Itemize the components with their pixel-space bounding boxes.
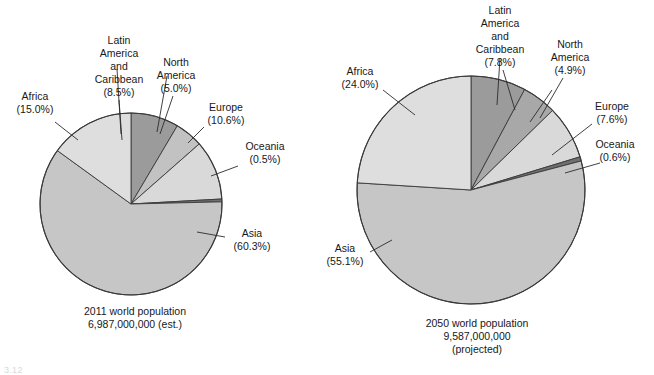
label-europe-2050-line1: Europe: [595, 100, 629, 112]
label-north-2050-line3: (4.9%): [555, 64, 586, 76]
label-africa-2050: Africa (24.0%): [342, 65, 379, 90]
label-africa-2050-line2: (24.0%): [342, 78, 379, 90]
label-oceania-2011: Oceania (0.5%): [245, 140, 284, 165]
caption-2011-line1: 2011 world population: [84, 305, 186, 317]
label-latin-2011-line5: (8.5%): [104, 86, 135, 98]
caption-2011-line2: 6,987,000,000 (est.): [88, 318, 182, 330]
caption-2050-line3: (projected): [452, 343, 502, 355]
figure-footnote: 3.12: [4, 365, 23, 375]
label-oceania-2050-line2: (0.6%): [600, 151, 631, 163]
label-latin-2011-line1: Latin: [108, 34, 131, 46]
label-north-america-2050: North America (4.9%): [551, 38, 590, 76]
label-latin-america-2011: Latin America and Caribbean (8.5%): [95, 34, 144, 98]
label-latin-2050-line5: (7.8%): [485, 56, 516, 68]
label-oceania-2011-line1: Oceania: [245, 140, 284, 152]
pie-slices-2011: [40, 113, 222, 295]
label-latin-2050-line4: Caribbean: [476, 43, 525, 55]
label-oceania-2011-line2: (0.5%): [250, 153, 281, 165]
label-oceania-2050-line1: Oceania: [595, 138, 634, 150]
label-asia-2050: Asia (55.1%): [327, 242, 364, 267]
label-north-2050-line1: North: [557, 38, 583, 50]
caption-2011: 2011 world population 6,987,000,000 (est…: [84, 305, 186, 330]
label-latin-2050-line1: Latin: [489, 4, 512, 16]
label-asia-2011-line2: (60.3%): [234, 240, 271, 252]
label-europe-2011-line2: (10.6%): [208, 114, 245, 126]
pie-chart-2011: Africa (15.0%) Latin America and Caribbe…: [17, 34, 285, 330]
label-asia-2050-line2: (55.1%): [327, 255, 364, 267]
leader-line-africa-2011: [55, 122, 78, 140]
label-europe-2011: Europe (10.6%): [208, 101, 245, 126]
label-latin-2011-line4: Caribbean: [95, 73, 144, 85]
label-africa-2050-line1: Africa: [347, 65, 374, 77]
label-north-2050-line2: America: [551, 51, 590, 63]
caption-2050-line1: 2050 world population: [426, 317, 529, 329]
label-europe-2050-line2: (7.6%): [597, 113, 628, 125]
label-latin-america-2050: Latin America and Caribbean (7.8%): [476, 4, 525, 68]
label-latin-2050-line3: and: [491, 30, 509, 42]
label-africa-2011-line1: Africa: [22, 90, 49, 102]
label-asia-2011: Asia (60.3%): [234, 227, 271, 252]
label-asia-2050-line1: Asia: [335, 242, 356, 254]
label-north-2011-line2: America: [157, 69, 196, 81]
label-asia-2011-line1: Asia: [242, 227, 263, 239]
caption-2050-line2: 9,587,000,000: [443, 330, 510, 342]
pie-2050-slice-africa: [357, 76, 471, 190]
label-north-2011-line1: North: [163, 56, 189, 68]
label-latin-2050-line2: America: [481, 17, 520, 29]
caption-2050: 2050 world population 9,587,000,000 (pro…: [426, 317, 529, 355]
label-oceania-2050: Oceania (0.6%): [595, 138, 634, 163]
label-europe-2050: Europe (7.6%): [595, 100, 629, 125]
pie-chart-2050: Africa (24.0%) Latin America and Caribbe…: [327, 4, 635, 355]
pie-slices-2050: [357, 76, 585, 304]
label-latin-2011-line3: and: [110, 60, 128, 72]
label-europe-2011-line1: Europe: [209, 101, 243, 113]
label-north-america-2011: North America (5.0%): [157, 56, 196, 94]
label-africa-2011-line2: (15.0%): [17, 103, 54, 115]
label-north-2011-line3: (5.0%): [161, 82, 192, 94]
label-africa-2011: Africa (15.0%): [17, 90, 54, 115]
label-latin-2011-line2: America: [100, 47, 139, 59]
